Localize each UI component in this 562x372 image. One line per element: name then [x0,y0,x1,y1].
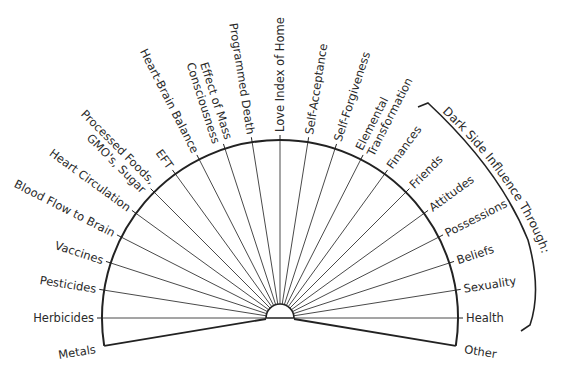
arc-tick [172,170,175,174]
ray-line [154,192,270,308]
ray-label: Sexuality [463,274,518,296]
dark-side-influence-diagram: HerbicidesPesticidesVaccinesBlood Flow t… [0,0,562,372]
ray-label-text: Herbicides [33,311,94,325]
ray-line [284,149,335,305]
ray-label-text: Love Index of Home [273,17,287,132]
ray-label: Pesticides [39,273,98,296]
ray-line [286,159,360,305]
ray-line [199,159,273,305]
arc-tick [151,189,155,193]
ray-label: Beliefs [455,242,496,267]
ray-label: EFT [153,147,177,173]
label-other: Other [463,342,498,361]
arc-tick [132,210,136,213]
ray-line [294,290,456,316]
ray-label: Attitudes [426,172,476,214]
ray-label: Love Index of Home [273,17,287,132]
ray-line [290,192,406,308]
ray-label-text: Attitudes [426,172,476,214]
arc-tick [197,155,199,159]
ray-line [291,213,424,309]
ray-label-text: Friends [407,152,446,191]
center-hub [266,304,294,318]
ray-label: Self-Acceptance [302,43,330,136]
ray-label-text: Self-Acceptance [302,43,330,136]
edge-line-metals [104,319,266,346]
ray-label: Vaccines [53,238,105,267]
ray-labels: HerbicidesPesticidesVaccinesBlood Flow t… [12,17,517,325]
arc-tick [439,235,443,237]
arc-tick [117,235,121,237]
ray-line [175,174,271,307]
ray-label-text: Health [466,311,504,325]
ray-line [136,213,269,309]
arc-tick [385,170,388,174]
ray-line [292,237,438,311]
ray-label: Herbicides [33,311,94,325]
ray-line [282,142,308,304]
label-metals: Metals [57,342,96,362]
ray-label-text: Pesticides [39,273,98,296]
arc-tick [361,155,363,159]
ray-label-text: Possessions [443,196,510,239]
edge-line-other [294,319,456,346]
ray-label-text: Beliefs [455,242,496,267]
ray-label-text: EFT [153,147,177,173]
arc-tick [406,189,410,193]
ray-label: Possessions [443,196,510,239]
ray-lines [102,140,458,318]
ray-label-text: Vaccines [53,238,105,267]
ray-line [104,290,266,316]
ray-label-text: Sexuality [463,274,518,296]
ray-label: Health [466,311,504,325]
ray-label: Programmed Death [226,22,257,135]
ray-label-text: Programmed Death [226,22,257,135]
ray-line [252,142,278,304]
ray-line [111,263,267,314]
ray-line [288,174,384,307]
ray-line [225,149,276,305]
ray-line [121,237,267,311]
arc-tick [424,210,428,213]
ray-label: Friends [407,152,446,191]
ray-line [293,263,449,314]
